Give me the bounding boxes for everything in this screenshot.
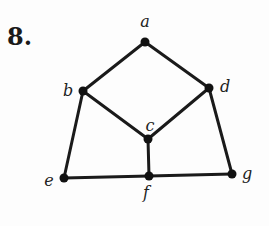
vertex-b bbox=[79, 87, 88, 96]
vertex-label-g: g bbox=[242, 164, 252, 183]
vertex-a bbox=[141, 38, 150, 47]
edge-a-d bbox=[145, 42, 209, 88]
graph-figure: 8. abcdefg bbox=[0, 0, 269, 226]
edge-a-b bbox=[83, 42, 145, 91]
edge-f-g bbox=[149, 174, 232, 176]
vertex-label-d: d bbox=[220, 77, 230, 96]
edge-b-e bbox=[64, 91, 83, 178]
vertex-label-c: c bbox=[146, 116, 155, 135]
vertex-e bbox=[60, 174, 69, 183]
vertex-label-f: f bbox=[142, 183, 152, 202]
vertex-label-a: a bbox=[140, 12, 150, 31]
vertex-f bbox=[145, 172, 154, 181]
vertex-label-e: e bbox=[44, 171, 53, 190]
edge-b-c bbox=[83, 91, 148, 139]
edge-d-c bbox=[148, 88, 209, 139]
vertex-d bbox=[205, 84, 214, 93]
graph-diagram: abcdefg bbox=[0, 0, 269, 226]
edge-c-f bbox=[148, 139, 149, 176]
edge-e-f bbox=[64, 176, 149, 178]
vertex-c bbox=[144, 135, 153, 144]
vertex-label-b: b bbox=[63, 81, 73, 100]
edge-d-g bbox=[209, 88, 232, 174]
vertex-g bbox=[228, 170, 237, 179]
